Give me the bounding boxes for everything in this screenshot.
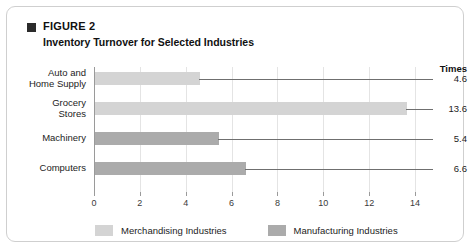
axis-tick-label: 4 xyxy=(183,198,188,208)
legend-label: Manufacturing Industries xyxy=(294,225,398,236)
figure-header: FIGURE 2 Inventory Turnover for Selected… xyxy=(27,20,254,49)
axis-tick xyxy=(277,192,278,196)
category-label: Machinery xyxy=(42,132,86,143)
category-label: Auto andHome Supply xyxy=(29,67,86,89)
axis-tick-label: 8 xyxy=(275,198,280,208)
axis-tick xyxy=(94,192,95,196)
bar xyxy=(95,72,200,85)
category-label: Computers xyxy=(40,162,86,173)
legend-item: Merchandising Industries xyxy=(95,225,227,236)
bar xyxy=(95,132,219,145)
axis-tick xyxy=(232,192,233,196)
bar xyxy=(95,162,246,175)
axis-tick xyxy=(140,192,141,196)
axis-tick-label: 14 xyxy=(410,198,420,208)
value-column: Times 4.613.65.46.6 xyxy=(421,63,467,74)
axis-tick-label: 2 xyxy=(137,198,142,208)
axis-tick xyxy=(186,192,187,196)
category-label-line: Auto and xyxy=(29,67,86,78)
figure-panel: FIGURE 2 Inventory Turnover for Selected… xyxy=(0,0,470,248)
legend-swatch xyxy=(268,225,286,236)
bar xyxy=(95,102,407,115)
gridline xyxy=(415,67,416,192)
value-label: 6.6 xyxy=(433,163,467,174)
gridline xyxy=(277,67,278,192)
category-label-line: Grocery xyxy=(52,97,86,108)
gridline xyxy=(369,67,370,192)
axis-tick-label: 6 xyxy=(229,198,234,208)
leader-line xyxy=(245,169,433,170)
category-label-line: Stores xyxy=(52,108,86,119)
leader-line xyxy=(406,109,433,110)
chart-legend: Merchandising IndustriesManufacturing In… xyxy=(95,225,439,236)
axis-tick xyxy=(415,192,416,196)
axis-tick-label: 0 xyxy=(91,198,96,208)
figure-title: Inventory Turnover for Selected Industri… xyxy=(43,36,254,49)
axis-tick-label: 12 xyxy=(364,198,374,208)
category-label-line: Home Supply xyxy=(29,78,86,89)
figure-frame: FIGURE 2 Inventory Turnover for Selected… xyxy=(6,6,464,242)
legend-item: Manufacturing Industries xyxy=(268,225,398,236)
category-label-line: Machinery xyxy=(42,132,86,143)
legend-label: Merchandising Industries xyxy=(121,225,227,236)
square-bullet-icon xyxy=(27,23,36,32)
figure-title-block: FIGURE 2 Inventory Turnover for Selected… xyxy=(43,20,254,49)
gridline xyxy=(323,67,324,192)
value-label: 4.6 xyxy=(433,73,467,84)
figure-label: FIGURE 2 xyxy=(43,20,254,33)
axis-tick xyxy=(369,192,370,196)
category-axis-labels: Auto andHome SupplyGroceryStoresMachiner… xyxy=(7,67,86,192)
axis-tick xyxy=(323,192,324,196)
chart-plot-area: 02468101214 xyxy=(94,67,415,192)
axis-tick-label: 10 xyxy=(318,198,328,208)
leader-line xyxy=(218,139,433,140)
category-label-line: Computers xyxy=(40,162,86,173)
category-label: GroceryStores xyxy=(52,97,86,119)
legend-swatch xyxy=(95,225,113,236)
value-label: 5.4 xyxy=(433,133,467,144)
leader-line xyxy=(199,79,433,80)
value-label: 13.6 xyxy=(433,103,467,114)
